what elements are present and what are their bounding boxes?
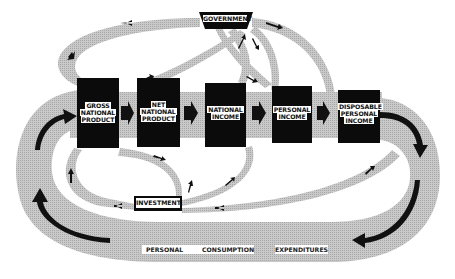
node-gross-national-product: GROSS NATIONAL PRODUCT: [77, 78, 119, 148]
node-national-income: NATIONAL INCOME: [205, 83, 246, 147]
node-net-national-product: NET NATIONAL PRODUCT: [137, 78, 180, 147]
nnp-label: NET NATIONAL PRODUCT: [137, 101, 180, 122]
investment-loop-band: [66, 148, 135, 210]
node-disposable-personal-income: DISPOSABLE PERSONAL INCOME: [338, 90, 380, 143]
pi-label: PERSONAL INCOME: [272, 106, 312, 120]
ni-label: NATIONAL INCOME: [205, 106, 246, 120]
investment-node: INVESTMENT: [134, 196, 182, 211]
gnp-to-investment-band: [118, 148, 182, 198]
government-label: GOVERNMENT: [203, 15, 247, 22]
node-personal-income: PERSONAL INCOME: [272, 86, 312, 143]
ni-to-investment-band: [182, 146, 253, 206]
consumption-word-expenditures: EXPENDITURES: [275, 245, 328, 254]
consumption-word-consumption: CONSUMPTION: [202, 245, 254, 254]
government-node: GOVERNMENT: [199, 12, 253, 29]
dpi-label: DISPOSABLE PERSONAL INCOME: [338, 103, 380, 124]
government-to-gnp-band: [58, 18, 200, 86]
gnp-label: GROSS NATIONAL PRODUCT: [77, 102, 119, 123]
investment-label: INVESTMENT: [136, 198, 180, 208]
consumption-word-personal: PERSONAL: [146, 245, 183, 254]
dpi-to-investment-band: [182, 150, 400, 213]
